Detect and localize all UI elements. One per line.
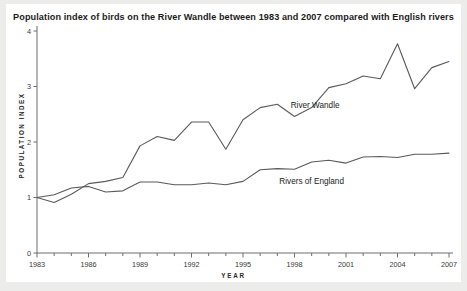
series-label: Rivers of England [279,177,344,186]
x-tick-label: 2007 [441,260,457,269]
x-tick-label: 1986 [80,260,96,269]
series-labels: River WandleRivers of England [279,101,344,186]
x-tick-label: 1983 [29,260,45,269]
x-tick-label: 1989 [132,260,148,269]
series-line [37,44,449,203]
y-tick-label: 2 [27,138,31,147]
x-tick-label: 1995 [235,260,251,269]
y-tick-label: 4 [27,27,31,36]
x-tick-label: 2001 [338,260,354,269]
y-tick-label: 1 [27,193,31,202]
chart-plot-area: 01234 1983198619891992199519982001200420… [6,4,461,282]
chart-plate: Population index of birds on the River W… [6,4,461,282]
series-lines [37,44,449,203]
y-axis: 01234 [27,26,37,258]
x-tick-label: 1992 [183,260,199,269]
x-axis: 198319861989199219951998200120042007 [29,253,457,269]
y-tick-label: 3 [27,82,31,91]
chart-page: Population index of birds on the River W… [0,0,467,291]
series-line [37,153,449,197]
series-label: River Wandle [291,101,340,110]
y-tick-label: 0 [27,249,31,258]
x-tick-label: 2004 [389,260,405,269]
x-tick-label: 1998 [286,260,302,269]
